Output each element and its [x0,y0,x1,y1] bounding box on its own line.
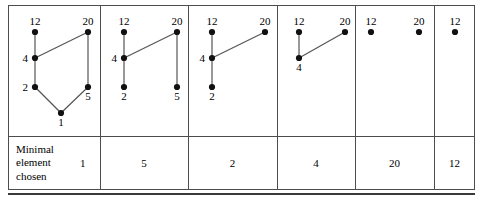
graph-node-12 [32,29,38,35]
graph-node-label-4: 4 [112,52,118,64]
graph-node-label-5: 5 [85,90,91,102]
algorithm-step-figure: 12204251122042512204212204122012 Minimal… [8,5,475,190]
graph-node-label-20: 20 [340,15,352,27]
graph-node-label-2: 2 [209,90,215,102]
graph-node-4 [209,55,215,61]
graph-edge-1-5 [61,87,88,113]
graph-node-label-12: 12 [30,15,41,27]
caption-label: Minimal element chosen [16,143,54,184]
graph-node-label-2: 2 [121,90,127,102]
caption-cell-1: Minimal element chosen1 [8,136,108,190]
caption-cell-4: 4 [277,136,355,190]
graph-node-12 [368,29,374,35]
caption-cell-3: 2 [188,136,277,190]
graph-edge-4-20 [35,32,88,58]
graph-node-2 [32,84,38,90]
caption-cell-2: 5 [100,136,188,190]
graph-panel-step-2: 1220425 [100,5,188,136]
graph-edge-4-20 [212,32,265,58]
graph-panel-step-3: 122042 [188,5,277,136]
minimal-element-value-6: 12 [449,157,460,169]
graph-panel-step-1: 12204251 [8,5,100,136]
graph-panel-step-5: 1220 [355,5,434,136]
graph-node-12 [121,29,127,35]
graph-node-20 [342,29,348,35]
graph-node-12 [209,29,215,35]
graph-node-label-20: 20 [172,15,184,27]
graph-step-3: 122042 [188,5,277,136]
caption-cell-6: 12 [434,136,475,190]
graph-node-4 [121,55,127,61]
graph-panel-step-4: 12204 [277,5,355,136]
minimal-element-value-2: 5 [141,157,147,169]
graph-step-4: 12204 [277,5,355,136]
graph-step-1: 12204251 [8,5,100,136]
graph-step-2: 1220425 [100,5,188,136]
caption-cell-5: 20 [355,136,434,190]
graph-node-label-1: 1 [58,116,64,128]
graph-node-label-12: 12 [366,15,377,27]
minimal-element-value-1: 1 [80,157,86,169]
graph-step-6: 12 [434,5,475,136]
graph-panel-step-6: 12 [434,5,475,136]
minimal-element-value-5: 20 [389,157,400,169]
graph-step-5: 1220 [355,5,434,136]
graph-node-label-12: 12 [294,15,305,27]
graph-node-label-20: 20 [414,15,426,27]
graph-node-20 [416,29,422,35]
graph-node-label-12: 12 [119,15,130,27]
graph-edge-2-1 [35,87,61,113]
graph-node-label-4: 4 [23,52,29,64]
graph-node-20 [85,29,91,35]
graph-node-12 [296,29,302,35]
figure-bottom-rule [8,193,475,195]
graph-node-20 [174,29,180,35]
graph-node-12 [452,29,458,35]
minimal-element-value-4: 4 [313,157,319,169]
graph-node-label-12: 12 [207,15,218,27]
graph-node-label-20: 20 [83,15,95,27]
graph-node-label-5: 5 [174,90,180,102]
graph-node-label-12: 12 [450,15,461,27]
graph-node-label-20: 20 [260,15,272,27]
graph-node-label-4: 4 [200,52,206,64]
graph-edge-4-20 [124,32,177,58]
minimal-element-value-3: 2 [230,157,236,169]
graph-edge-4-20 [299,32,345,58]
graph-node-4 [32,55,38,61]
graph-node-label-4: 4 [296,61,302,73]
graph-node-20 [262,29,268,35]
graph-node-label-2: 2 [23,81,29,93]
